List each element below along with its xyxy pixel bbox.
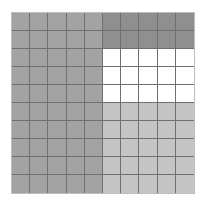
grid-cell-left-half [67,85,85,103]
grid-cell-top-right [103,31,121,49]
grid-cell-left-half [30,157,48,175]
grid-cell-left-half [12,121,30,139]
grid-cell-middle-right [158,49,176,67]
grid-cell-middle-right [103,67,121,85]
grid-cell-bottom-right [121,103,139,121]
grid-cell-bottom-right [121,121,139,139]
grid-cell-left-half [30,121,48,139]
grid-cell-left-half [12,85,30,103]
grid-cell-bottom-right [158,121,176,139]
grid-cell-top-right [158,31,176,49]
grid-cell-left-half [67,31,85,49]
grid-cell-middle-right [103,85,121,103]
grid-cell-left-half [67,67,85,85]
grid-cell-bottom-right [139,103,157,121]
grid-cell-left-half [85,85,103,103]
grid-cell-left-half [48,49,66,67]
grid-cell-left-half [85,67,103,85]
grid-cell-middle-right [176,67,194,85]
grid-cell-middle-right [121,85,139,103]
grid-cell-left-half [67,175,85,193]
grid-cell-left-half [85,13,103,31]
grid-cell-bottom-right [103,175,121,193]
grid-cell-left-half [12,13,30,31]
grid-cell-left-half [48,31,66,49]
grid-cell-bottom-right [121,139,139,157]
grid-cell-bottom-right [158,139,176,157]
grid-cell-bottom-right [139,175,157,193]
grid-cell-left-half [48,139,66,157]
hundred-grid [11,12,195,194]
grid-cell-left-half [48,13,66,31]
grid-cell-top-right [121,31,139,49]
grid-cell-top-right [139,31,157,49]
grid-cell-left-half [67,103,85,121]
grid-cell-left-half [48,67,66,85]
grid-cell-bottom-right [103,103,121,121]
grid-cell-left-half [67,139,85,157]
grid-cell-bottom-right [176,103,194,121]
grid-cell-middle-right [139,85,157,103]
grid-cell-middle-right [176,49,194,67]
grid-cell-top-right [103,13,121,31]
grid-cell-bottom-right [139,157,157,175]
grid-cell-left-half [30,67,48,85]
grid-cell-bottom-right [176,139,194,157]
grid-cell-left-half [12,67,30,85]
grid-cell-left-half [12,157,30,175]
grid-cell-left-half [12,175,30,193]
grid-cell-bottom-right [103,121,121,139]
grid-cell-bottom-right [121,175,139,193]
grid-cell-left-half [85,103,103,121]
grid-cell-left-half [85,175,103,193]
grid-cell-middle-right [139,49,157,67]
grid-cell-middle-right [176,85,194,103]
grid-cell-left-half [30,13,48,31]
grid-cell-left-half [30,85,48,103]
grid-cell-top-right [176,31,194,49]
grid-cell-left-half [30,49,48,67]
grid-cell-middle-right [121,67,139,85]
grid-cell-bottom-right [139,139,157,157]
grid-cell-bottom-right [158,157,176,175]
grid-cell-left-half [67,121,85,139]
grid-cell-middle-right [158,85,176,103]
grid-cell-left-half [30,103,48,121]
grid-cell-top-right [158,13,176,31]
grid-cell-left-half [67,157,85,175]
grid-cell-left-half [67,49,85,67]
grid-cell-left-half [48,157,66,175]
grid-cell-left-half [67,13,85,31]
grid-cell-left-half [30,175,48,193]
grid-cell-left-half [12,31,30,49]
grid-cell-left-half [12,103,30,121]
grid-cell-bottom-right [139,121,157,139]
grid-cell-top-right [139,13,157,31]
grid-cell-bottom-right [121,157,139,175]
grid-cell-left-half [48,103,66,121]
grid-cell-left-half [48,121,66,139]
grid-cell-left-half [85,139,103,157]
grid-cell-middle-right [121,49,139,67]
grid-cell-top-right [121,13,139,31]
grid-cell-left-half [85,31,103,49]
grid-cell-middle-right [103,49,121,67]
grid-cell-middle-right [139,67,157,85]
grid-cell-left-half [12,49,30,67]
grid-cell-left-half [30,31,48,49]
grid-cell-middle-right [158,67,176,85]
grid-cell-left-half [48,175,66,193]
grid-cell-bottom-right [158,103,176,121]
grid-cell-left-half [30,139,48,157]
grid-cell-bottom-right [176,157,194,175]
grid-cell-bottom-right [158,175,176,193]
grid-cell-bottom-right [176,121,194,139]
grid-cell-bottom-right [103,139,121,157]
grid-cell-bottom-right [176,175,194,193]
grid-cell-left-half [85,49,103,67]
grid-cell-left-half [12,139,30,157]
grid-cell-left-half [85,157,103,175]
grid-cell-top-right [176,13,194,31]
grid-cell-left-half [48,85,66,103]
grid-cell-left-half [85,121,103,139]
